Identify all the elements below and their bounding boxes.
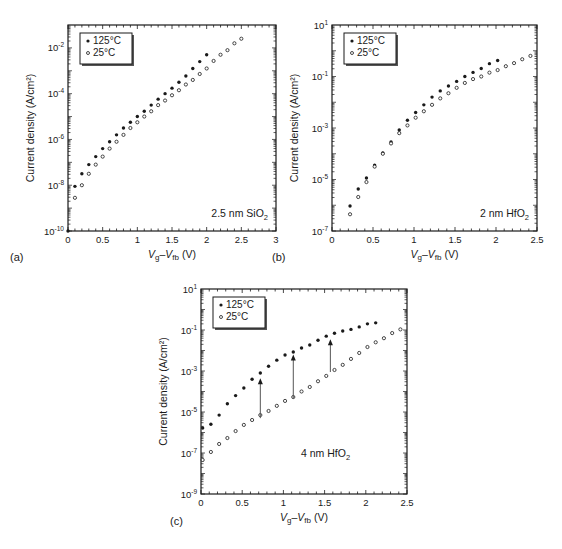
- data-point-25c: [122, 133, 125, 136]
- x-axis-label: Vg–Vfb (V): [280, 511, 328, 525]
- data-point-125c: [108, 140, 111, 143]
- panel-label-c: (c): [170, 515, 183, 527]
- legend: 125°C25°C: [344, 33, 398, 66]
- data-point-25c: [275, 404, 278, 407]
- data-point-25c: [115, 140, 118, 143]
- data-point-25c: [218, 442, 221, 445]
- data-point-125c: [325, 334, 328, 337]
- legend-marker-open: [87, 52, 90, 55]
- data-point-25c: [212, 59, 215, 62]
- data-point-125c: [201, 426, 204, 429]
- legend: 125°C25°C: [80, 33, 134, 66]
- data-point-125c: [136, 115, 139, 118]
- data-point-25c: [455, 86, 458, 89]
- data-point-125c: [406, 119, 409, 122]
- x-axis-label: Vg–Vfb (V): [411, 248, 459, 262]
- data-point-25c: [219, 53, 222, 56]
- data-point-25c: [358, 351, 361, 354]
- arrow-head-icon: [328, 339, 333, 345]
- data-point-25c: [150, 110, 153, 113]
- x-tick-label: 1.5: [448, 234, 461, 245]
- data-point-125c: [349, 328, 352, 331]
- y-tick-label: 10-1: [312, 70, 329, 82]
- data-point-125c: [143, 110, 146, 113]
- data-point-25c: [283, 399, 286, 402]
- data-point-25c: [101, 155, 104, 158]
- data-point-25c: [381, 152, 384, 155]
- data-point-125c: [101, 147, 104, 150]
- data-point-125c: [234, 394, 237, 397]
- x-tick-label: 1: [135, 234, 140, 245]
- data-point-125c: [455, 80, 458, 83]
- data-point-25c: [365, 180, 368, 183]
- data-point-125c: [267, 365, 270, 368]
- legend-entry: 125°C: [93, 35, 121, 46]
- data-point-125c: [170, 86, 173, 89]
- data-point-125c: [226, 402, 229, 405]
- data-point-125c: [308, 343, 311, 346]
- data-point-125c: [66, 229, 69, 232]
- data-point-125c: [365, 176, 368, 179]
- y-tick-label: 10-7: [312, 225, 329, 237]
- data-point-25c: [512, 62, 515, 65]
- chart-panel-a: 00.511.522.5310-1010-810-610-410-2Vg–Vfb…: [24, 25, 279, 262]
- data-point-125c: [209, 423, 212, 426]
- data-point-125c: [357, 187, 360, 190]
- data-point-25c: [366, 345, 369, 348]
- data-point-25c: [157, 104, 160, 107]
- data-point-125c: [87, 163, 90, 166]
- data-point-125c: [259, 371, 262, 374]
- data-point-125c: [250, 378, 253, 381]
- data-point-25c: [267, 409, 270, 412]
- data-point-125c: [341, 329, 344, 332]
- data-point-25c: [242, 423, 245, 426]
- data-point-25c: [447, 92, 450, 95]
- data-point-25c: [73, 196, 76, 199]
- data-point-25c: [209, 450, 212, 453]
- material-annotation: 2 nm HfO2: [480, 207, 529, 222]
- y-tick-label: 10-5: [181, 406, 198, 418]
- y-tick-label: 10-1: [181, 324, 198, 336]
- data-point-25c: [521, 58, 524, 61]
- data-point-125c: [115, 133, 118, 136]
- data-point-25c: [177, 89, 180, 92]
- data-point-25c: [422, 110, 425, 113]
- data-point-125c: [366, 322, 369, 325]
- data-point-125c: [191, 67, 194, 70]
- data-point-125c: [348, 204, 351, 207]
- data-point-125c: [242, 386, 245, 389]
- legend-marker-open: [351, 52, 354, 55]
- y-tick-label: 10-9: [181, 488, 198, 500]
- y-tick-label: 10-6: [48, 133, 65, 145]
- data-point-25c: [250, 418, 253, 421]
- x-tick-label: 2.5: [530, 234, 543, 245]
- material-annotation: 2.5 nm SiO2: [211, 207, 268, 222]
- data-point-25c: [439, 97, 442, 100]
- data-point-25c: [480, 75, 483, 78]
- data-point-25c: [399, 328, 402, 331]
- legend-marker-filled: [219, 303, 222, 306]
- data-point-25c: [341, 363, 344, 366]
- data-point-25c: [170, 94, 173, 97]
- y-tick-label: 10-3: [312, 122, 329, 134]
- panel-label-a: (a): [10, 251, 23, 263]
- y-tick-label: 10-3: [181, 365, 198, 377]
- data-point-25c: [108, 147, 111, 150]
- x-tick-label: 1.5: [165, 234, 178, 245]
- data-point-25c: [333, 368, 336, 371]
- data-point-125c: [205, 53, 208, 56]
- x-axis-label: Vg–Vfb (V): [148, 248, 196, 262]
- data-point-125c: [374, 321, 377, 324]
- y-tick-label: 10-4: [48, 87, 65, 99]
- data-point-25c: [382, 337, 385, 340]
- legend-marker-open: [220, 316, 223, 319]
- data-point-25c: [184, 83, 187, 86]
- legend-marker-filled: [350, 39, 353, 42]
- x-tick-label: 2: [493, 234, 498, 245]
- data-point-125c: [184, 74, 187, 77]
- data-point-25c: [374, 341, 377, 344]
- data-point-25c: [308, 385, 311, 388]
- data-point-25c: [226, 436, 229, 439]
- x-tick-label: 3: [273, 234, 278, 245]
- data-point-125c: [333, 332, 336, 335]
